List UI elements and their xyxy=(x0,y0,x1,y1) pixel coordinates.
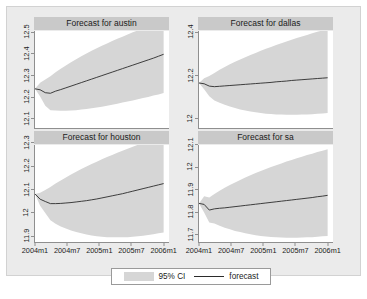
x-tick-label: 2005m1 xyxy=(250,246,276,255)
panel-austin: Forecast for austin xyxy=(34,17,169,129)
x-tick-mark xyxy=(295,243,296,246)
plot-svg-austin xyxy=(35,31,169,128)
x-tick-label: 2004m1 xyxy=(186,246,212,255)
graph-canvas: 12.112.212.312.412.5 Forecast for austin… xyxy=(6,6,361,276)
x-tick-mark xyxy=(199,243,200,246)
plot-area-houston xyxy=(34,145,169,243)
panel-title-austin: Forecast for austin xyxy=(34,17,169,30)
x-tick-mark xyxy=(163,243,164,246)
x-tick-mark xyxy=(263,243,264,246)
forecast-chart-figure: 12.112.212.312.412.5 Forecast for austin… xyxy=(0,0,367,299)
x-tick-label: 2005m7 xyxy=(282,246,308,255)
x-tick-mark xyxy=(231,243,232,246)
panel-title-sa: Forecast for sa xyxy=(198,131,333,144)
panel-dallas: Forecast for dallas xyxy=(198,17,333,129)
plot-area-dallas xyxy=(198,31,333,129)
x-tick-label: 2005m7 xyxy=(118,246,144,255)
panel-title-houston: Forecast for houston xyxy=(34,131,169,144)
legend-label-ci: 95% CI xyxy=(159,272,186,281)
plot-area-austin xyxy=(34,31,169,129)
plot-area-sa xyxy=(198,145,333,243)
x-tick-label: 2005m1 xyxy=(86,246,112,255)
ci-band-dallas xyxy=(199,31,328,115)
x-tick-mark xyxy=(99,243,100,246)
x-tick-label: 2004m1 xyxy=(22,246,48,255)
y-axis-austin: 12.112.212.312.412.5 xyxy=(19,21,32,129)
x-axis-sa: 2004m12004m72005m12005m72006m1 xyxy=(199,243,333,255)
x-tick-mark xyxy=(67,243,68,246)
x-tick-mark xyxy=(35,243,36,246)
x-tick-mark xyxy=(131,243,132,246)
panel-houston: Forecast for houston xyxy=(34,131,169,243)
y-axis-dallas: 1212.212.4 xyxy=(183,21,196,129)
ci-band-sa xyxy=(199,149,328,238)
x-tick-label: 2004m7 xyxy=(54,246,80,255)
forecast-line-swatch-icon xyxy=(194,276,224,277)
x-tick-mark xyxy=(327,243,328,246)
plot-svg-dallas xyxy=(199,31,333,128)
panel-sa: Forecast for sa xyxy=(198,131,333,243)
x-axis-houston: 2004m12004m72005m12005m72006m1 xyxy=(35,243,169,255)
y-axis-sa: 11.711.811.91212.1 xyxy=(183,135,196,243)
ci-band-houston xyxy=(35,145,164,237)
panel-title-dallas: Forecast for dallas xyxy=(198,17,333,30)
legend-item-forecast: forecast xyxy=(194,272,258,281)
legend-label-forecast: forecast xyxy=(229,272,258,281)
chart-legend: 95% CI forecast xyxy=(111,268,271,285)
x-tick-label: 2006m1 xyxy=(314,246,340,255)
ci-band-swatch-icon xyxy=(124,272,154,281)
plot-svg-houston xyxy=(35,145,169,242)
ci-band-austin xyxy=(35,31,164,111)
x-tick-label: 2006m1 xyxy=(150,246,176,255)
y-axis-houston: 11.91212.112.212.3 xyxy=(19,135,32,243)
legend-item-ci: 95% CI xyxy=(124,272,186,281)
x-tick-label: 2004m7 xyxy=(218,246,244,255)
plot-svg-sa xyxy=(199,145,333,242)
